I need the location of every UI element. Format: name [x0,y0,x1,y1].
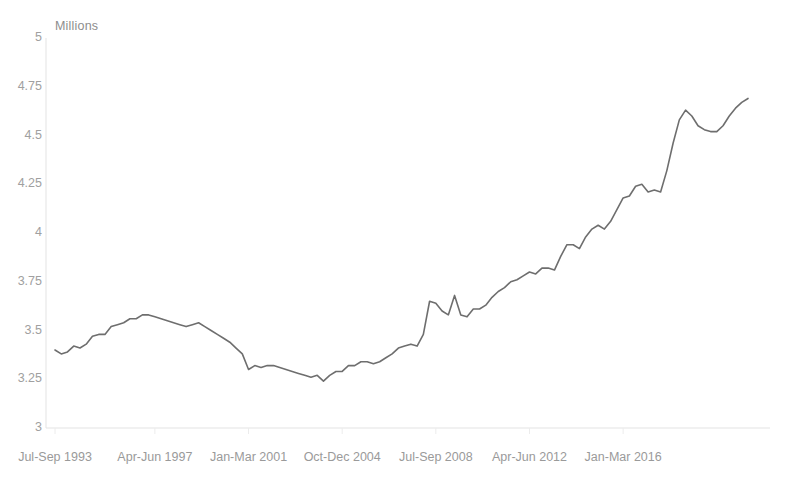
x-axis-tick-label: Apr-Jun 2012 [492,450,567,464]
data-series-layer [55,98,748,381]
x-axis-tick-label: Jul-Sep 2008 [399,450,473,464]
x-axis-tick-label: Oct-Dec 2004 [304,450,381,464]
y-axis-tick-label: 5 [0,30,42,44]
y-axis-tick-label: 3 [0,420,42,434]
y-axis-tick-label: 4.5 [0,128,42,142]
chart-canvas [0,0,785,491]
axis-lines [46,38,770,434]
x-axis-tick-label: Jan-Mar 2016 [585,450,662,464]
y-axis-tick-label: 4.75 [0,79,42,93]
y-axis-tick-label: 4.25 [0,176,42,190]
y-axis-tick-label: 3.5 [0,323,42,337]
series-line [55,98,748,381]
y-axis-tick-label: 4 [0,225,42,239]
x-axis-tick-label: Jul-Sep 1993 [18,450,92,464]
x-axis-tick-label: Jan-Mar 2001 [210,450,287,464]
y-axis-tick-label: 3.25 [0,371,42,385]
line-chart: Millions 33.253.53.7544.254.54.755 Jul-S… [0,0,785,491]
y-axis-tick-label: 3.75 [0,274,42,288]
x-axis-tick-label: Apr-Jun 1997 [117,450,192,464]
